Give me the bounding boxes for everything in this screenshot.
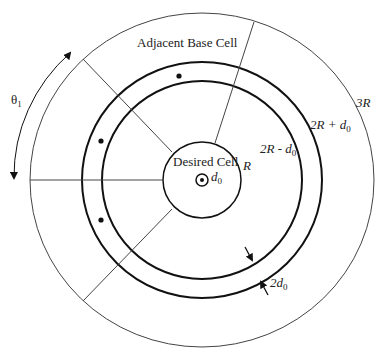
sector-line-lower-left [83,209,172,301]
angle-arc-arrow [14,53,70,178]
adjacent-base-cell-label: Adjacent Base Cell [137,36,237,49]
interferer-dot-left-lower [98,217,103,222]
sector-line-upper-left [83,59,172,152]
angle-theta-label: θ1 [11,93,22,109]
ring-width-label: 2d0 [270,276,288,292]
ring-width-arrow-outer [261,282,268,295]
ring-width-arrow-inner [245,247,252,260]
center-dot [200,178,204,182]
radius-r-label: R [243,159,251,172]
outer-ring-radius-label: 2R + d0 [310,118,351,134]
cell-interference-diagram: Adjacent Base Cell θ1 Desired Cell d0 R … [0,0,379,354]
center-offset-label: d0 [211,170,222,186]
diagram-graphics [0,0,379,354]
outer-3r-label: 3R [356,96,370,109]
inner-ring-radius-label: 2R - d0 [260,142,296,158]
interferer-dot-left-upper [98,138,103,143]
desired-cell-label: Desired Cell [173,155,238,168]
interferer-dot-top [176,73,181,78]
